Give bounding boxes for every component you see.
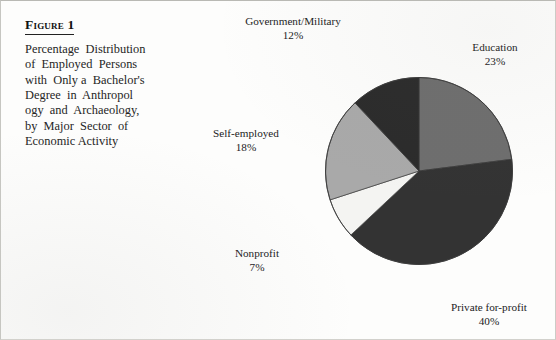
pie-label-percent: 7%: [209, 261, 305, 275]
pie-label-name: Nonprofit: [235, 247, 279, 259]
caption-line: of Employed Persons: [25, 57, 177, 72]
caption-line: ogy and Archaeology,: [25, 103, 177, 118]
pie-slice-education: [419, 78, 512, 172]
pie-label-nonprofit: Nonprofit 7%: [209, 247, 305, 274]
caption-line: with Only a Bachelor's: [25, 73, 177, 88]
figure-title: Figure 1: [25, 18, 74, 35]
pie-label-private-for-profit: Private for-profit 40%: [425, 301, 553, 328]
pie-label-education: Education 23%: [453, 41, 537, 68]
pie-label-name: Education: [472, 41, 517, 53]
pie-slice-group: [326, 78, 513, 265]
figure-caption-text: Percentage Distribution of Employed Pers…: [25, 42, 177, 150]
pie-label-percent: 23%: [453, 55, 537, 69]
pie-chart: [325, 77, 513, 265]
pie-label-percent: 12%: [233, 29, 353, 43]
pie-label-percent: 18%: [191, 141, 301, 155]
pie-label-name: Private for-profit: [451, 301, 527, 313]
caption-line: Economic Activity: [25, 134, 177, 149]
pie-label-self-employed: Self-employed 18%: [191, 127, 301, 154]
figure-caption-block: Figure 1 Percentage Distribution of Empl…: [25, 15, 177, 150]
pie-label-percent: 40%: [425, 315, 553, 329]
caption-line: Percentage Distribution: [25, 42, 177, 57]
figure-page: Figure 1 Percentage Distribution of Empl…: [0, 0, 556, 340]
caption-line: by Major Sector of: [25, 119, 177, 134]
pie-label-government-military: Government/Military 12%: [233, 15, 353, 42]
pie-chart-svg: [325, 77, 513, 265]
caption-line: Degree in Anthropol: [25, 88, 177, 103]
pie-label-name: Government/Military: [245, 15, 341, 27]
pie-label-name: Self-employed: [213, 127, 279, 139]
